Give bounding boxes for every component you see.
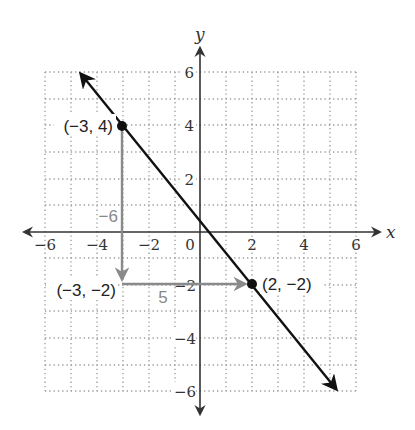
x-tick-labels: −6 −4 −2 0 2 4 6 (34, 236, 361, 254)
y-tick: 2 (184, 171, 194, 189)
y-tick: 4 (184, 117, 194, 135)
x-tick: 6 (351, 236, 361, 254)
point-a (117, 121, 127, 131)
x-tick: −6 (34, 236, 56, 254)
x-tick: 0 (185, 236, 195, 254)
run-label: 5 (158, 288, 167, 307)
point-a-label: (−3, 4) (63, 117, 113, 136)
x-tick: 4 (299, 236, 309, 254)
point-b-label: (2, −2) (262, 275, 312, 294)
corner-label: (−3, −2) (56, 281, 116, 300)
rise-label: −6 (99, 207, 118, 226)
y-tick: 6 (184, 64, 194, 82)
x-axis-label: x (386, 222, 396, 242)
y-tick: −6 (174, 383, 196, 401)
coordinate-plane: x y −6 −4 −2 0 2 4 6 6 4 2 −2 −4 −6 −6 5… (0, 0, 415, 430)
point-b (247, 279, 257, 289)
y-axis-label: y (194, 24, 205, 44)
x-tick: 2 (247, 236, 257, 254)
y-tick: −2 (174, 277, 196, 295)
x-tick: −4 (86, 236, 108, 254)
y-tick: −4 (174, 330, 196, 348)
x-tick: −2 (138, 236, 160, 254)
